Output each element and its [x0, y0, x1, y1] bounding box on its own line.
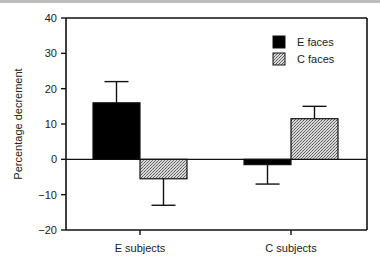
legend-label: C faces — [297, 53, 335, 65]
bar-c-faces-c-subjects — [291, 119, 338, 160]
legend-swatch — [273, 53, 285, 65]
y-tick-label: −10 — [38, 189, 57, 201]
legend-swatch — [273, 36, 285, 48]
bar-e-faces-e-subjects — [93, 103, 140, 160]
x-tick-label: C subjects — [265, 242, 317, 254]
bar-c-faces-e-subjects — [140, 159, 187, 178]
legend-label: E faces — [297, 36, 334, 48]
x-axis: E subjectsC subjects — [115, 230, 318, 254]
y-tick-label: 10 — [45, 118, 57, 130]
y-tick-label: 30 — [45, 47, 57, 59]
bars — [93, 82, 338, 206]
y-tick-label: 40 — [45, 12, 57, 24]
bar-chart: −20−10010203040 E subjectsC subjects Per… — [0, 0, 380, 268]
legend: E facesC faces — [273, 36, 335, 65]
y-tick-label: 20 — [45, 83, 57, 95]
bar-e-faces-c-subjects — [244, 159, 291, 164]
y-axis-title: Percentage decrement — [12, 68, 24, 179]
x-tick-label: E subjects — [115, 242, 166, 254]
y-tick-label: −20 — [38, 224, 57, 236]
y-tick-label: 0 — [51, 153, 57, 165]
y-axis: −20−10010203040 — [38, 12, 66, 236]
